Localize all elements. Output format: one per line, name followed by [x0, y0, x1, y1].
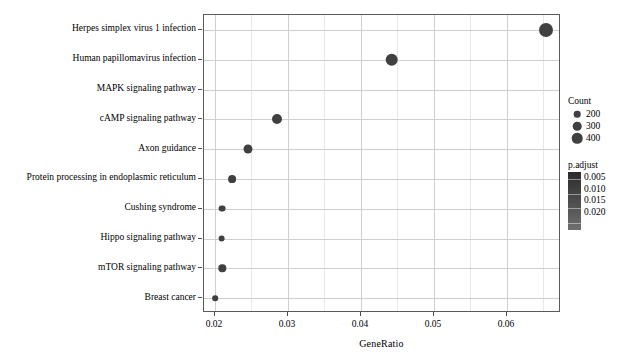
gridline-horizontal [204, 30, 559, 31]
padjust-legend-tick [568, 208, 581, 209]
padjust-colorbar-labels: 0.0050.0100.0150.020 [584, 172, 605, 218]
gridline-horizontal [204, 298, 559, 299]
y-axis-tick-mark [198, 59, 202, 60]
y-axis-tick-label: Breast cancer [145, 292, 196, 302]
gridline-horizontal [204, 268, 559, 269]
data-point[interactable] [229, 175, 237, 183]
data-point[interactable] [219, 265, 226, 272]
gridline-horizontal [204, 90, 559, 91]
y-axis-tick-label: cAMP signaling pathway [100, 113, 196, 123]
count-legend-dot [568, 108, 586, 120]
x-axis-tick-label: 0.04 [352, 319, 369, 330]
x-axis-tick-label: 0.03 [279, 319, 296, 330]
gridline-horizontal [204, 209, 559, 210]
dot-plot-figure: Herpes simplex virus 1 infectionHuman pa… [0, 0, 623, 364]
padjust-legend: p.adjust 0.0050.0100.0150.020 [568, 160, 623, 230]
x-axis-tick-mark [433, 312, 434, 316]
data-point[interactable] [385, 53, 398, 66]
padjust-colorbar [568, 172, 581, 230]
padjust-legend-value: 0.015 [584, 195, 605, 207]
y-axis-tick-mark [198, 89, 202, 90]
count-legend-value: 400 [586, 132, 600, 144]
padjust-legend-tick [568, 179, 581, 180]
count-legend-dot [568, 120, 586, 132]
count-legend-title: Count [568, 96, 623, 107]
x-axis-tick-mark [287, 312, 288, 316]
x-axis-tick-mark [214, 312, 215, 316]
gridline-horizontal [204, 239, 559, 240]
x-axis-title: GeneRatio [203, 338, 560, 349]
data-point[interactable] [539, 23, 553, 37]
y-axis-tick-mark [198, 29, 202, 30]
padjust-legend-value: 0.005 [584, 172, 605, 184]
y-axis-tick-mark [198, 297, 202, 298]
padjust-legend-value: 0.020 [584, 207, 605, 219]
padjust-legend-title: p.adjust [568, 160, 623, 171]
padjust-legend-tick [568, 194, 581, 195]
x-axis-tick-label: 0.06 [498, 319, 515, 330]
y-axis-tick-label: mTOR signaling pathway [98, 262, 196, 272]
x-axis-tick-mark [360, 312, 361, 316]
y-axis-tick-label: Axon guidance [138, 143, 196, 153]
y-axis-tick-label: Hippo signaling pathway [100, 232, 196, 242]
y-axis-tick-mark [198, 208, 202, 209]
count-legend: Count 200300400 [568, 96, 623, 144]
y-axis-tick-label: Herpes simplex virus 1 infection [72, 23, 196, 33]
plot-panel [203, 14, 560, 312]
padjust-legend-tick [568, 223, 581, 224]
y-axis-tick-label: Protein processing in endoplasmic reticu… [27, 172, 196, 182]
y-axis-tick-mark [198, 148, 202, 149]
data-point[interactable] [243, 145, 252, 154]
count-legend-value: 200 [586, 108, 600, 120]
data-point[interactable] [219, 205, 226, 212]
count-legend-entries: 200300400 [568, 108, 623, 144]
x-axis-tick-label: 0.02 [206, 319, 223, 330]
count-legend-item[interactable]: 300 [568, 120, 623, 132]
count-legend-value: 300 [586, 120, 600, 132]
padjust-legend-value: 0.010 [584, 184, 605, 196]
y-axis-tick-label: MAPK signaling pathway [97, 83, 196, 93]
gridline-horizontal [204, 179, 559, 180]
count-legend-item[interactable]: 400 [568, 132, 623, 144]
y-axis-tick-mark [198, 118, 202, 119]
gridline-horizontal [204, 149, 559, 150]
gridline-horizontal [204, 60, 559, 61]
padjust-colorbar-wrap: 0.0050.0100.0150.020 [568, 172, 623, 230]
data-point[interactable] [218, 235, 225, 242]
count-legend-dot [568, 132, 586, 144]
y-axis-tick-mark [198, 267, 202, 268]
x-axis-tick-label: 0.05 [425, 319, 442, 330]
y-axis-tick-label: Cushing syndrome [124, 202, 196, 212]
data-point[interactable] [212, 295, 218, 301]
gridline-horizontal [204, 119, 559, 120]
count-legend-item[interactable]: 200 [568, 108, 623, 120]
y-axis-tick-mark [198, 178, 202, 179]
data-point[interactable] [272, 114, 282, 124]
y-axis-tick-mark [198, 238, 202, 239]
y-axis-tick-label: Human papillomavirus infection [73, 53, 196, 63]
x-axis-tick-mark [506, 312, 507, 316]
